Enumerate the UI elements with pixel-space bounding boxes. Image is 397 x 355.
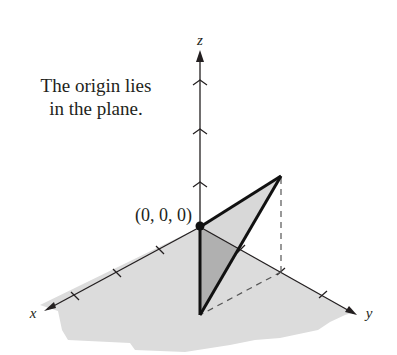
caption-line-2: in the plane.	[49, 98, 142, 119]
caption-line-1: The origin lies	[41, 75, 152, 96]
x-axis-label: x	[29, 305, 37, 321]
z-axis-label: z	[196, 32, 203, 48]
diagram-canvas: The origin lies in the plane. (0, 0, 0) …	[0, 0, 397, 355]
origin-point	[196, 222, 205, 231]
origin-label: (0, 0, 0)	[135, 205, 192, 226]
y-axis-label: y	[364, 305, 373, 321]
plane-region	[40, 227, 352, 352]
figure-3d-plane-origin: The origin lies in the plane. (0, 0, 0) …	[0, 0, 397, 355]
z-axis-arrow-icon	[196, 50, 204, 62]
